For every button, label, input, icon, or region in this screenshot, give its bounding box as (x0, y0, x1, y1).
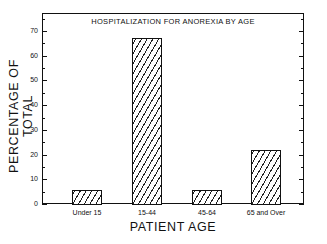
y-tick (301, 93, 304, 94)
y-tick (42, 68, 45, 69)
x-axis-label: PATIENT AGE (42, 220, 304, 234)
y-tick (42, 105, 47, 106)
y-tick (299, 204, 304, 205)
x-tick-label: 65 and Over (231, 209, 301, 216)
y-tick (42, 179, 47, 180)
y-tick (42, 43, 45, 44)
y-tick (299, 56, 304, 57)
y-tick (42, 80, 47, 81)
y-tick (301, 192, 304, 193)
y-tick (301, 118, 304, 119)
y-tick (42, 204, 47, 205)
bar (132, 38, 162, 205)
y-tick (299, 179, 304, 180)
y-tick (299, 80, 304, 81)
bar (192, 190, 222, 205)
y-tick-label: 70 (20, 27, 38, 34)
y-tick (299, 130, 304, 131)
y-tick (301, 167, 304, 168)
bar (251, 150, 281, 205)
bar-chart: HOSPITALIZATION FOR ANOREXIA BY AGE PERC… (0, 0, 327, 244)
y-tick (42, 19, 45, 20)
y-tick (301, 43, 304, 44)
y-tick (42, 118, 45, 119)
y-tick-label: 20 (20, 151, 38, 158)
y-tick-label: 50 (20, 76, 38, 83)
y-tick (42, 192, 45, 193)
bar (72, 190, 102, 205)
y-tick (42, 130, 47, 131)
y-tick (301, 142, 304, 143)
chart-title: HOSPITALIZATION FOR ANOREXIA BY AGE (42, 17, 304, 26)
y-tick-label: 10 (20, 175, 38, 182)
y-tick (299, 105, 304, 106)
y-tick (301, 68, 304, 69)
y-tick-label: 30 (20, 126, 38, 133)
y-tick (299, 155, 304, 156)
y-tick (299, 31, 304, 32)
y-tick (301, 19, 304, 20)
y-tick (42, 167, 45, 168)
y-tick (42, 56, 47, 57)
y-tick-label: 40 (20, 101, 38, 108)
y-axis-label: PERCENTAGE OF TOTAL (7, 46, 35, 186)
y-tick (42, 142, 45, 143)
y-tick-label: 60 (20, 52, 38, 59)
y-tick-label: 0 (20, 200, 38, 207)
y-tick (42, 155, 47, 156)
y-tick (42, 93, 45, 94)
y-tick (42, 31, 47, 32)
